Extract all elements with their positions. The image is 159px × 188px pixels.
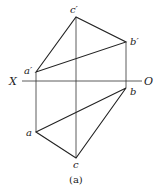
orthographic-projection-diagram: c′ b′ a′ b a c X O (a)	[0, 0, 159, 188]
label-c: c	[73, 159, 79, 170]
top-view-triangle	[36, 88, 126, 158]
label-b: b	[130, 86, 136, 97]
label-b-prime: b′	[130, 36, 139, 47]
label-c-prime: c′	[70, 4, 79, 15]
figure-caption: (a)	[69, 174, 83, 185]
front-view-triangle	[36, 17, 126, 72]
label-a-prime: a′	[24, 65, 33, 76]
axis-label-o: O	[144, 75, 153, 88]
label-a: a	[26, 127, 32, 138]
axis-label-x: X	[8, 75, 18, 88]
